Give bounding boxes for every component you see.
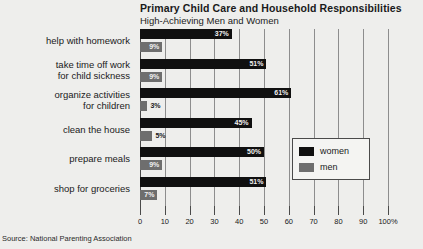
- x-tick-30: [214, 206, 215, 215]
- bar-men: 7%: [140, 190, 157, 200]
- x-tick-70: [314, 206, 315, 215]
- bar-value-women: 51%: [249, 177, 263, 187]
- x-tick-40: [239, 206, 240, 215]
- bar-value-women: 51%: [249, 59, 263, 69]
- legend-swatch-women: [299, 147, 314, 156]
- bar-row: 37%9%: [140, 29, 388, 59]
- x-tick-label-0: 0: [138, 217, 142, 226]
- bar-row: 51%7%: [140, 177, 388, 207]
- x-tick-label-50: 50: [260, 217, 268, 226]
- bar-value-men: 9%: [149, 42, 159, 52]
- x-tick-label-20: 20: [185, 217, 193, 226]
- x-tick-label-90: 90: [359, 217, 367, 226]
- bar-men: 9%: [140, 42, 162, 52]
- chart-title: Primary Child Care and Household Respons…: [140, 2, 423, 14]
- bar-row: 51%9%: [140, 59, 388, 89]
- category-label: take time off workfor child sickness: [0, 59, 134, 81]
- category-label-line: clean the house: [0, 124, 130, 135]
- bar-value-men: 9%: [149, 72, 159, 82]
- x-tick-label-70: 70: [309, 217, 317, 226]
- category-label-line: for children: [0, 100, 130, 111]
- bar-value-women: 45%: [235, 118, 249, 128]
- bar-value-men: 5%: [155, 131, 165, 141]
- category-label: help with homework: [0, 35, 134, 46]
- category-label: shop for groceries: [0, 183, 134, 194]
- category-label-line: for child sickness: [0, 70, 130, 81]
- bar-women: 45%: [140, 118, 252, 128]
- x-tick-60: [289, 206, 290, 215]
- category-label: prepare meals: [0, 153, 134, 164]
- x-axis: 0102030405060708090100%: [140, 206, 388, 228]
- bar-value-men: 3%: [150, 101, 160, 111]
- bar-men: 5%: [140, 131, 152, 141]
- bar-value-men: 9%: [149, 160, 159, 170]
- chart-subtitle: High-Achieving Men and Women: [140, 15, 423, 27]
- bar-women: 51%: [140, 177, 266, 187]
- category-label-line: shop for groceries: [0, 183, 130, 194]
- x-tick-0: [140, 206, 141, 215]
- bar-women: 37%: [140, 29, 232, 39]
- gridline-100: [388, 29, 389, 206]
- legend-label-women: women: [320, 146, 349, 156]
- legend: women men: [292, 138, 370, 180]
- x-tick-label-30: 30: [210, 217, 218, 226]
- category-label: clean the house: [0, 124, 134, 135]
- bar-women: 61%: [140, 88, 291, 98]
- x-tick-label-10: 10: [161, 217, 169, 226]
- legend-label-men: men: [320, 162, 338, 172]
- bar-men: 9%: [140, 72, 162, 82]
- x-tick-90: [363, 206, 364, 215]
- bar-women: 51%: [140, 59, 266, 69]
- legend-item-women: women: [299, 144, 363, 158]
- bar-value-women: 61%: [274, 88, 288, 98]
- legend-item-men: men: [299, 160, 363, 174]
- x-tick-label-100: 100%: [378, 217, 397, 226]
- category-axis-labels: help with homeworktake time off workfor …: [0, 29, 134, 206]
- x-tick-label-40: 40: [235, 217, 243, 226]
- x-tick-20: [190, 206, 191, 215]
- bar-value-men: 7%: [144, 190, 154, 200]
- category-label-line: take time off work: [0, 59, 130, 70]
- source-note: Source: National Parenting Association: [2, 234, 132, 243]
- x-tick-label-80: 80: [334, 217, 342, 226]
- category-label-line: help with homework: [0, 35, 130, 46]
- chart-container: Primary Child Care and Household Respons…: [0, 0, 423, 249]
- x-tick-80: [338, 206, 339, 215]
- x-tick-50: [264, 206, 265, 215]
- bar-men: 9%: [140, 160, 162, 170]
- x-tick-label-60: 60: [285, 217, 293, 226]
- x-tick-10: [165, 206, 166, 215]
- title-block: Primary Child Care and Household Respons…: [140, 2, 423, 27]
- category-label: organize activitiesfor children: [0, 89, 134, 111]
- bar-value-women: 37%: [215, 29, 229, 39]
- legend-swatch-men: [299, 163, 314, 172]
- bar-women: 50%: [140, 147, 264, 157]
- bar-men: 3%: [140, 101, 147, 111]
- category-label-line: prepare meals: [0, 153, 130, 164]
- bar-value-women: 50%: [247, 147, 261, 157]
- category-label-line: organize activities: [0, 89, 130, 100]
- x-tick-100: [388, 206, 389, 215]
- bar-row: 61%3%: [140, 88, 388, 118]
